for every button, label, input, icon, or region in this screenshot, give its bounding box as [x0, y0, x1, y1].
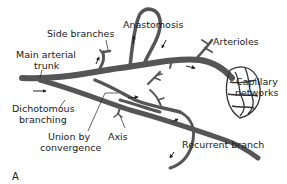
label-axis: Axis [108, 131, 128, 142]
anastomosis-loop [130, 9, 160, 66]
panel-letter: A [12, 171, 19, 182]
side-branch [100, 50, 110, 68]
label-main-trunk-1: Main arterial [16, 49, 76, 60]
label-arterioles: Arterioles [213, 36, 259, 47]
label-union-1: Union by [48, 131, 90, 142]
label-dichotomous-2: branching [19, 114, 67, 125]
label-capillary-2: networks [235, 87, 279, 98]
label-recurrent-branch: Recurrent branch [182, 139, 264, 150]
label-dichotomous-1: Dichotomous [12, 103, 75, 114]
label-anastomosis: Anastomosis [123, 19, 183, 30]
label-side-branches: Side branches [47, 28, 114, 39]
label-union-2: convergence [40, 142, 101, 153]
label-capillary-1: Capillary [236, 76, 278, 87]
label-main-trunk-2: trunk [34, 60, 59, 71]
